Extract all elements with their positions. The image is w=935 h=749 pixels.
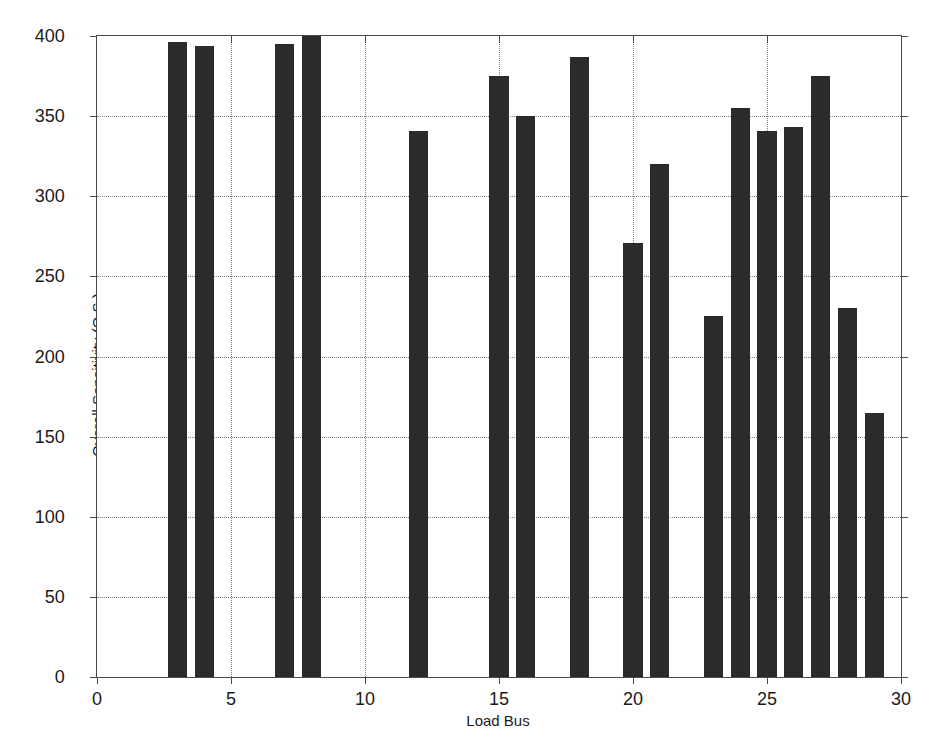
x-tick-mark (767, 677, 768, 684)
x-axis-title: Load Bus (96, 712, 900, 729)
y-tick-label: 350 (35, 106, 65, 127)
y-tick-mark (90, 597, 97, 598)
x-tick-label: 5 (226, 689, 236, 710)
y-tick-mark (90, 196, 97, 197)
y-tick-mark (90, 276, 97, 277)
bar (489, 76, 508, 677)
y-tick-label: 100 (35, 506, 65, 527)
y-tick-label: 50 (45, 586, 65, 607)
bar (570, 57, 589, 677)
y-tick-mark-right (901, 36, 908, 37)
y-tick-mark-right (901, 437, 908, 438)
bar (838, 308, 857, 677)
x-tick-mark (365, 677, 366, 684)
y-tick-mark (90, 36, 97, 37)
bar (650, 164, 669, 677)
y-tick-mark-right (901, 517, 908, 518)
x-tick-label: 30 (891, 689, 911, 710)
y-tick-mark-right (901, 196, 908, 197)
x-tick-mark-top (767, 36, 768, 43)
y-tick-label: 150 (35, 426, 65, 447)
bar (168, 42, 187, 677)
y-tick-mark (90, 677, 97, 678)
x-tick-mark-top (499, 36, 500, 43)
plot-area: 050100150200250300350400051015202530 (96, 35, 902, 678)
x-tick-mark (97, 677, 98, 684)
bar (865, 413, 884, 677)
x-tick-mark (633, 677, 634, 684)
y-tick-label: 250 (35, 266, 65, 287)
y-tick-mark-right (901, 597, 908, 598)
x-tick-label: 15 (489, 689, 509, 710)
x-tick-mark-top (633, 36, 634, 43)
bar (757, 131, 776, 677)
y-tick-mark (90, 357, 97, 358)
y-tick-mark (90, 116, 97, 117)
bar (409, 131, 428, 677)
y-tick-label: 400 (35, 26, 65, 47)
x-tick-label: 25 (757, 689, 777, 710)
bar (275, 44, 294, 677)
gridline-vertical (231, 36, 232, 677)
x-tick-mark (499, 677, 500, 684)
y-tick-label: 200 (35, 346, 65, 367)
bar (731, 108, 750, 677)
bar (811, 76, 830, 677)
bar (704, 316, 723, 677)
y-tick-mark (90, 517, 97, 518)
x-tick-label: 0 (92, 689, 102, 710)
y-tick-mark (90, 437, 97, 438)
y-tick-label: 300 (35, 186, 65, 207)
x-tick-label: 10 (355, 689, 375, 710)
y-tick-mark-right (901, 677, 908, 678)
x-tick-mark-top (231, 36, 232, 43)
bar (784, 127, 803, 677)
bar (516, 116, 535, 677)
x-tick-label: 20 (623, 689, 643, 710)
y-tick-mark-right (901, 276, 908, 277)
y-tick-mark-right (901, 357, 908, 358)
y-tick-label: 0 (55, 667, 65, 688)
bar (302, 36, 321, 677)
chart-figure: Overall Sensitivity (O.S.) Load Bus 0501… (0, 0, 935, 749)
bar (195, 46, 214, 677)
y-tick-mark-right (901, 116, 908, 117)
x-tick-mark (231, 677, 232, 684)
x-tick-mark (901, 677, 902, 684)
x-tick-mark-top (365, 36, 366, 43)
bar (623, 243, 642, 677)
gridline-vertical (365, 36, 366, 677)
